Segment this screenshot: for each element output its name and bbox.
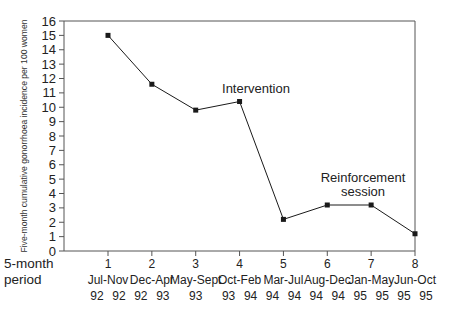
- y-tick-label: 3: [49, 200, 56, 215]
- x-tick-year-end: 92: [112, 289, 126, 303]
- x-tick-period: Jan-May: [348, 273, 394, 287]
- y-tick-label: 5: [49, 172, 56, 187]
- x-tick-year-start: 93: [222, 289, 236, 303]
- x-tick-number: 8: [412, 257, 419, 271]
- y-tick-label: 9: [49, 114, 56, 129]
- y-tick-label: 16: [42, 14, 56, 29]
- x-tick-period: Jun-Oct: [394, 273, 437, 287]
- y-tick-label: 8: [49, 129, 56, 144]
- x-axis-title-line1: 5-month: [4, 256, 54, 271]
- data-point-marker: [325, 203, 330, 208]
- annotation-intervention: Intervention: [222, 81, 290, 96]
- y-tick-label: 10: [42, 100, 56, 115]
- y-tick-label: 1: [49, 229, 56, 244]
- x-tick-period: Mar-Jul: [263, 273, 303, 287]
- data-point-marker: [237, 99, 242, 104]
- x-tick-year-start: 94: [266, 289, 280, 303]
- data-point-marker: [413, 231, 418, 236]
- data-point-marker: [149, 82, 154, 87]
- data-point-marker: [369, 203, 374, 208]
- y-tick-label: 15: [42, 28, 56, 43]
- x-tick-number: 6: [324, 257, 331, 271]
- x-tick-year-start: 92: [134, 289, 148, 303]
- x-tick-period: Jul-Nov: [88, 273, 129, 287]
- data-point-marker: [106, 33, 111, 38]
- x-axis-title-line2: period: [4, 272, 42, 287]
- y-tick-label: 6: [49, 157, 56, 172]
- y-tick-label: 2: [49, 215, 56, 230]
- x-axis: 1Jul-Nov92922Dec-Apr92933May-Sept934Oct-…: [88, 251, 437, 303]
- y-tick-label: 14: [42, 42, 56, 57]
- annotations: InterventionReinforcementsession: [222, 81, 406, 199]
- y-tick-label: 11: [43, 85, 57, 100]
- data-series: [106, 33, 418, 236]
- x-tick-year-end: 94: [288, 289, 302, 303]
- x-tick-number: 4: [236, 257, 243, 271]
- y-tick-label: 12: [42, 71, 56, 86]
- data-point-marker: [281, 217, 286, 222]
- line-chart: 012345678910111213141516 1Jul-Nov92922De…: [0, 0, 452, 313]
- x-tick-period: Dec-Apr: [130, 273, 174, 287]
- data-point-marker: [193, 108, 198, 113]
- x-tick-year-end: 95: [375, 289, 389, 303]
- x-tick-year-start: 95: [353, 289, 367, 303]
- x-tick-number: 2: [149, 257, 156, 271]
- plot-frame: [64, 21, 415, 251]
- y-tick-label: 7: [49, 143, 56, 158]
- x-tick-number: 7: [368, 257, 375, 271]
- x-tick-year-start: 92: [90, 289, 104, 303]
- y-tick-label: 13: [42, 57, 56, 72]
- y-axis-title: Five-month cumulative gonorrhoea inciden…: [19, 19, 29, 252]
- x-tick-number: 5: [280, 257, 287, 271]
- x-tick-period: Oct-Feb: [218, 273, 262, 287]
- annotation-reinforcement-line1: Reinforcement: [321, 170, 406, 185]
- x-tick-year-start: 95: [397, 289, 411, 303]
- x-tick-number: 1: [105, 257, 112, 271]
- y-tick-label: 4: [49, 186, 56, 201]
- x-tick-period: Aug-Dec: [304, 273, 351, 287]
- x-tick-year-start: 94: [310, 289, 324, 303]
- annotation-reinforcement-line2: session: [341, 184, 385, 199]
- plot-border: [64, 21, 415, 251]
- x-tick-year: 93: [189, 289, 203, 303]
- x-tick-year-end: 94: [332, 289, 346, 303]
- x-tick-year-end: 95: [419, 289, 433, 303]
- y-axis: 012345678910111213141516: [42, 14, 64, 259]
- x-tick-number: 3: [192, 257, 199, 271]
- x-tick-year-end: 94: [244, 289, 258, 303]
- x-tick-period: May-Sept: [170, 273, 222, 287]
- x-tick-year-end: 93: [156, 289, 170, 303]
